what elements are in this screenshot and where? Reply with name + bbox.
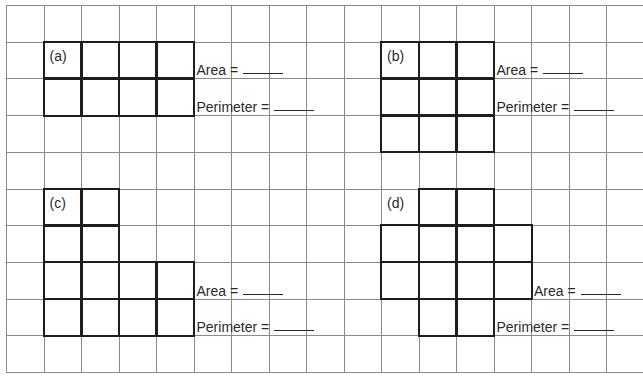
area-answer-c-blank-field[interactable] <box>243 293 283 295</box>
shape-label-a: (a) <box>50 49 67 63</box>
shape-cell <box>455 261 495 300</box>
shape-cell <box>118 77 158 116</box>
perimeter-answer-c: Perimeter = <box>197 320 315 334</box>
grid-line-vertical <box>569 5 570 372</box>
grid-line-vertical <box>6 5 7 372</box>
area-answer-d-blank-field[interactable] <box>581 293 621 295</box>
shape-cell <box>380 77 420 116</box>
shape-cell <box>118 261 158 300</box>
shape-label-c: (c) <box>50 196 66 210</box>
area-answer-b-blank-field[interactable] <box>543 72 583 74</box>
shape-cell <box>43 298 83 337</box>
shape-cell <box>155 261 195 300</box>
shape-cell <box>80 224 120 263</box>
area-answer-a-blank-field[interactable] <box>243 72 283 74</box>
shape-cell <box>455 224 495 263</box>
shape-cell <box>455 77 495 116</box>
shape-cell <box>455 114 495 153</box>
shape-cell <box>493 261 533 300</box>
perimeter-answer-c-blank-field[interactable] <box>274 329 314 331</box>
area-answer-c: Area = <box>197 284 284 298</box>
shape-cell <box>155 77 195 116</box>
perimeter-answer-c-label: Perimeter = <box>197 320 270 334</box>
area-answer-b-label: Area = <box>497 63 539 77</box>
perimeter-answer-d-blank-field[interactable] <box>574 329 614 331</box>
grid-line-horizontal <box>6 152 643 153</box>
grid-line-horizontal <box>6 372 643 373</box>
shape-cell <box>380 261 420 300</box>
area-answer-a: Area = <box>197 63 284 77</box>
shape-cell <box>418 188 458 227</box>
grid-line-vertical <box>606 5 607 372</box>
shape-cell <box>418 224 458 263</box>
shape-cell <box>43 261 83 300</box>
area-answer-b: Area = <box>497 63 584 77</box>
grid-line-vertical <box>306 5 307 372</box>
shape-cell <box>43 77 83 116</box>
perimeter-answer-b-blank-field[interactable] <box>574 109 614 111</box>
shape-cell <box>43 224 83 263</box>
shape-cell <box>80 41 120 80</box>
shape-label-b: (b) <box>387 49 404 63</box>
grid-line-vertical <box>344 5 345 372</box>
shape-cell <box>380 224 420 263</box>
grid-worksheet: (a)Area =Perimeter =(b)Area =Perimeter =… <box>0 0 643 377</box>
shape-cell <box>455 41 495 80</box>
shape-cell <box>80 261 120 300</box>
area-answer-a-label: Area = <box>197 63 239 77</box>
grid-line-vertical <box>269 5 270 372</box>
shape-cell <box>80 188 120 227</box>
perimeter-answer-d-label: Perimeter = <box>497 320 570 334</box>
perimeter-answer-b: Perimeter = <box>497 100 615 114</box>
shape-cell <box>380 114 420 153</box>
shape-cell <box>418 114 458 153</box>
perimeter-answer-a-label: Perimeter = <box>197 100 270 114</box>
shape-cell <box>455 188 495 227</box>
shape-cell <box>493 224 533 263</box>
perimeter-answer-b-label: Perimeter = <box>497 100 570 114</box>
perimeter-answer-a-blank-field[interactable] <box>274 109 314 111</box>
shape-cell <box>418 261 458 300</box>
shape-label-d: (d) <box>387 196 404 210</box>
grid-line-horizontal <box>6 5 643 6</box>
perimeter-answer-d: Perimeter = <box>497 320 615 334</box>
shape-cell <box>80 298 120 337</box>
grid-line-vertical <box>531 5 532 372</box>
shape-cell <box>155 298 195 337</box>
shape-cell <box>155 41 195 80</box>
shape-cell <box>118 298 158 337</box>
grid-line-vertical <box>231 5 232 372</box>
perimeter-answer-a: Perimeter = <box>197 100 315 114</box>
area-answer-d-label: Area = <box>534 284 576 298</box>
shape-cell <box>418 77 458 116</box>
shape-cell <box>418 41 458 80</box>
shape-cell <box>80 77 120 116</box>
shape-cell <box>455 298 495 337</box>
shape-cell <box>418 298 458 337</box>
area-answer-c-label: Area = <box>197 284 239 298</box>
shape-cell <box>118 41 158 80</box>
area-answer-d: Area = <box>534 284 621 298</box>
